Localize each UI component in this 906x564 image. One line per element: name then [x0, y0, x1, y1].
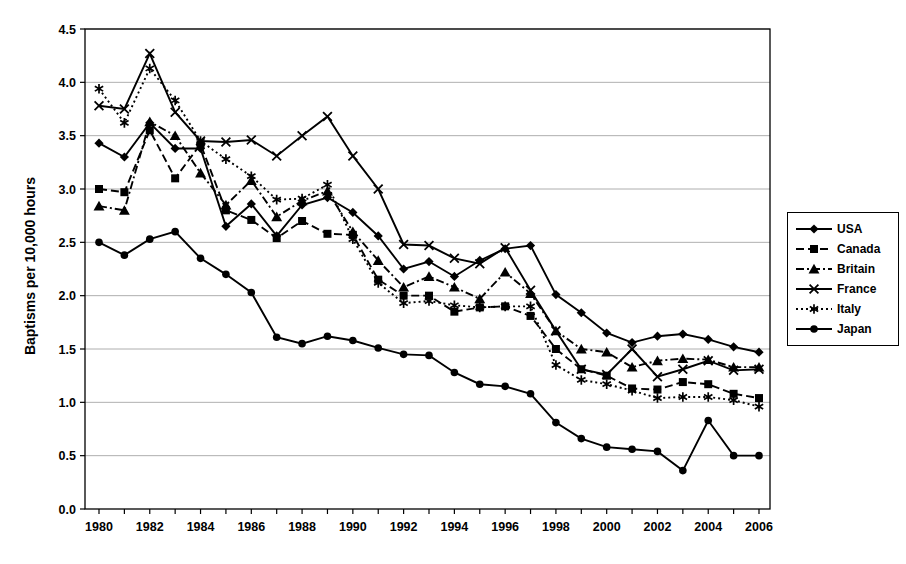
series-France — [95, 49, 764, 381]
y-tick-label: 2.0 — [59, 289, 76, 303]
legend-label: Italy — [837, 303, 861, 315]
series-line-Japan — [99, 232, 759, 471]
legend-marker-asterisk-icon — [795, 302, 833, 316]
legend-label: USA — [837, 223, 862, 235]
x-tick-label: 1988 — [288, 520, 316, 534]
x-tick-label: 1990 — [339, 520, 367, 534]
x-tick-label: 1994 — [440, 520, 468, 534]
legend-item-Japan: Japan — [795, 320, 892, 338]
legend-label: Britain — [837, 263, 875, 275]
series-Italy — [95, 64, 763, 412]
plot-frame — [85, 29, 770, 509]
x-tick-label: 1998 — [542, 520, 570, 534]
legend-item-Canada: Canada — [795, 240, 892, 258]
legend-item-Italy: Italy — [795, 300, 892, 318]
gridlines — [85, 29, 770, 456]
x-tick-label: 1992 — [390, 520, 418, 534]
y-axis: 0.00.51.01.52.02.53.03.54.04.5 — [59, 23, 85, 517]
legend-label: Canada — [837, 243, 880, 255]
legend-item-USA: USA — [795, 220, 892, 238]
y-tick-label: 4.0 — [59, 76, 76, 90]
series-markers-USA — [94, 118, 763, 357]
x-tick-label: 2006 — [745, 520, 773, 534]
series-USA — [94, 118, 763, 357]
series-line-France — [99, 54, 759, 377]
series-markers-France — [95, 49, 764, 381]
legend-label: France — [837, 283, 876, 295]
y-axis-label: Baptisms per 10,000 hours — [22, 177, 38, 355]
x-tick-label: 1980 — [85, 520, 113, 534]
y-tick-label: 0.5 — [59, 449, 76, 463]
y-tick-label: 1.5 — [59, 343, 76, 357]
plot-area: 0.00.51.01.52.02.53.03.54.04.51980198219… — [0, 0, 906, 564]
series-line-USA — [99, 123, 759, 352]
y-tick-label: 4.5 — [59, 23, 76, 37]
x-tick-label: 1986 — [237, 520, 265, 534]
series-markers-Britain — [94, 117, 765, 372]
x-tick-label: 2002 — [644, 520, 672, 534]
legend-marker-circle-icon — [795, 322, 833, 336]
legend-marker-square-icon — [795, 242, 833, 256]
x-tick-label: 2000 — [593, 520, 621, 534]
legend-item-France: France — [795, 280, 892, 298]
x-tick-label: 1984 — [187, 520, 215, 534]
x-tick-label: 1982 — [136, 520, 164, 534]
y-tick-label: 0.0 — [59, 503, 76, 517]
y-tick-label: 3.0 — [59, 183, 76, 197]
legend-marker-diamond-icon — [795, 222, 833, 236]
y-tick-label: 3.5 — [59, 129, 76, 143]
legend-item-Britain: Britain — [795, 260, 892, 278]
baptisms-line-chart: 0.00.51.01.52.02.53.03.54.04.51980198219… — [0, 0, 906, 564]
series-markers-Italy — [95, 64, 763, 412]
legend-marker-triangle-icon — [795, 262, 833, 276]
x-tick-label: 2004 — [694, 520, 722, 534]
x-tick-label: 1996 — [491, 520, 519, 534]
legend: USACanadaBritainFranceItalyJapan — [787, 212, 899, 346]
y-tick-label: 2.5 — [59, 236, 76, 250]
x-axis: 1980198219841986198819901992199419961998… — [85, 509, 773, 534]
legend-marker-x-icon — [795, 282, 833, 296]
legend-label: Japan — [837, 323, 872, 335]
y-tick-label: 1.0 — [59, 396, 76, 410]
series-Britain — [94, 117, 765, 372]
